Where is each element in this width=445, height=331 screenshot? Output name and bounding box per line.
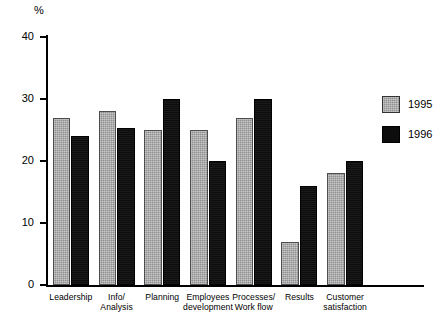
category-label-1-line2: Analysis <box>91 302 143 312</box>
category-label-1-line1: Info/ <box>91 292 143 302</box>
y-axis-unit-label: % <box>34 4 44 16</box>
bar-1995-3 <box>190 130 208 285</box>
category-label-5: Results <box>274 292 326 302</box>
bar-1995-2 <box>144 130 162 285</box>
category-label-4-line2: Work flow <box>228 302 280 312</box>
y-tick-label-0: 0 <box>10 279 34 290</box>
y-tick-40 <box>40 36 46 38</box>
category-label-0: Leadership <box>45 292 97 302</box>
category-label-2-line1: Planning <box>136 292 188 302</box>
bar-1995-0 <box>53 118 71 285</box>
legend-label-1995: 1995 <box>408 98 432 110</box>
bar-1996-5 <box>300 186 318 285</box>
y-tick-30 <box>40 98 46 100</box>
category-label-3: Employeesdevelopment <box>182 292 234 312</box>
bar-1995-6 <box>327 173 345 285</box>
category-label-2: Planning <box>136 292 188 302</box>
category-label-3-line2: development <box>182 302 234 312</box>
category-label-4-line1: Processes/ <box>228 292 280 302</box>
category-label-6: Customersatisfaction <box>319 292 371 312</box>
legend-swatch-1995-icon <box>382 96 400 113</box>
bar-1996-2 <box>163 99 181 285</box>
y-tick-label-10: 10 <box>10 217 34 228</box>
category-label-1: Info/Analysis <box>91 292 143 312</box>
category-label-5-line1: Results <box>274 292 326 302</box>
y-tick-label-20: 20 <box>10 155 34 166</box>
bar-1995-4 <box>236 118 254 285</box>
bar-1996-1 <box>117 128 135 285</box>
bar-1995-1 <box>99 111 117 285</box>
y-tick-0 <box>40 284 46 286</box>
bar-1996-4 <box>254 99 272 285</box>
category-label-6-line2: satisfaction <box>319 302 371 312</box>
y-tick-label-30: 30 <box>10 93 34 104</box>
category-label-4: Processes/Work flow <box>228 292 280 312</box>
legend-swatch-1996-icon <box>382 126 400 143</box>
bar-1996-6 <box>346 161 364 285</box>
category-label-6-line1: Customer <box>319 292 371 302</box>
category-label-3-line1: Employees <box>182 292 234 302</box>
y-axis-line <box>46 35 48 286</box>
x-axis-line <box>46 285 424 287</box>
y-tick-20 <box>40 160 46 162</box>
legend-label-1996: 1996 <box>408 128 432 140</box>
bar-1995-5 <box>281 242 299 285</box>
bar-1996-3 <box>209 161 227 285</box>
bar-1996-0 <box>71 136 89 285</box>
bar-chart: % 403020100 LeadershipInfo/AnalysisPlann… <box>0 0 445 331</box>
category-label-0-line1: Leadership <box>45 292 97 302</box>
y-tick-10 <box>40 222 46 224</box>
y-tick-label-40: 40 <box>10 31 34 42</box>
